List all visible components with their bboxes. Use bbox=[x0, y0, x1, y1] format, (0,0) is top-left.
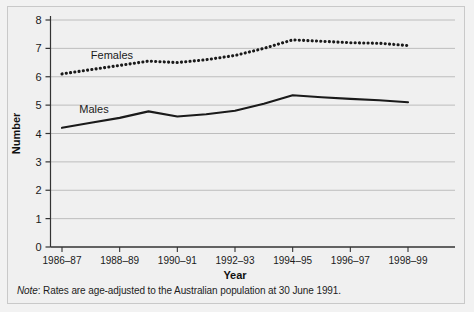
y-axis-ticks-group: 012345678 bbox=[35, 14, 50, 253]
series-label-females: Females bbox=[91, 49, 134, 61]
y-tick-label: 7 bbox=[35, 42, 41, 54]
series-label-males: Males bbox=[79, 103, 109, 115]
y-tick-label: 8 bbox=[35, 14, 41, 26]
y-tick-label: 5 bbox=[35, 99, 41, 111]
y-tick-label: 0 bbox=[35, 241, 41, 253]
y-tick-label: 6 bbox=[35, 71, 41, 83]
x-tick-label: 1994–95 bbox=[273, 255, 312, 266]
chart-figure: 012345678 1986–871988–891990–911992–9319… bbox=[0, 0, 474, 312]
x-axis-title: Year bbox=[223, 269, 247, 281]
x-tick-label: 1992–93 bbox=[216, 255, 255, 266]
note-lead: Note bbox=[17, 285, 38, 296]
x-tick-label: 1988–89 bbox=[100, 255, 139, 266]
x-tick-label: 1996–97 bbox=[331, 255, 370, 266]
y-tick-label: 3 bbox=[35, 156, 41, 168]
y-tick-label: 4 bbox=[35, 128, 41, 140]
x-axis-ticks-group: 1986–871988–891990–911992–931994–951996–… bbox=[43, 247, 428, 266]
plot-area-wrapper: 012345678 1986–871988–891990–911992–9319… bbox=[0, 0, 474, 312]
y-axis-title: Number bbox=[10, 112, 22, 154]
figure-note: Note: Rates are age-adjusted to the Aust… bbox=[17, 285, 341, 296]
y-tick-label: 1 bbox=[35, 213, 41, 225]
series-line-males bbox=[62, 95, 408, 128]
x-tick-label: 1990–91 bbox=[158, 255, 197, 266]
note-text: : Rates are age-adjusted to the Australi… bbox=[38, 285, 341, 296]
x-tick-label: 1998–99 bbox=[389, 255, 428, 266]
y-tick-label: 2 bbox=[35, 184, 41, 196]
x-tick-label: 1986–87 bbox=[43, 255, 82, 266]
line-chart: 012345678 1986–871988–891990–911992–9319… bbox=[0, 0, 474, 312]
